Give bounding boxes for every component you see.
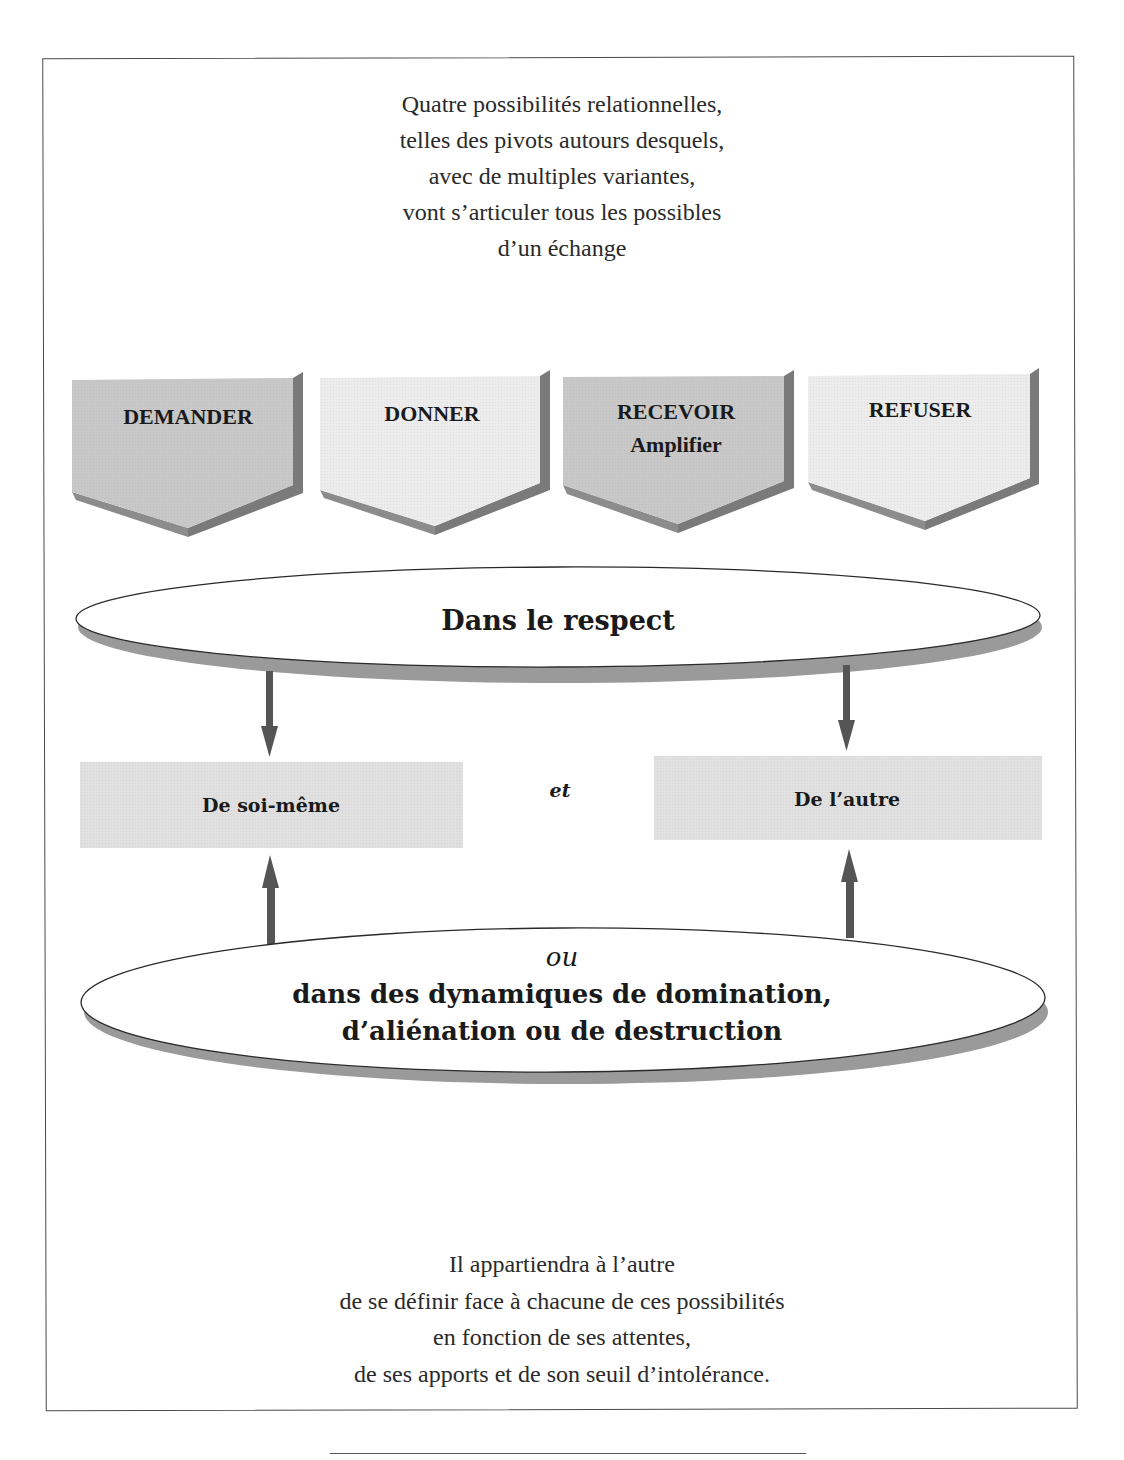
arrow-down-icon bbox=[838, 720, 855, 751]
oval-line: dans des dynamiques de domination, bbox=[292, 979, 831, 1009]
arrow-down-left bbox=[261, 671, 278, 757]
arrow-shaft bbox=[267, 886, 275, 944]
oval-line: d’aliénation ou de destruction bbox=[342, 1016, 782, 1046]
oval-respect: Dans le respect bbox=[76, 565, 1042, 683]
outro-line: de se définir face à chacune de ces poss… bbox=[0, 1283, 1124, 1320]
oval-domination: ou dans des dynamiques de domination, d’… bbox=[81, 925, 1048, 1084]
outro-line: Il appartiendra à l’autre bbox=[0, 1246, 1124, 1283]
pivot-label: RECEVOIR bbox=[617, 399, 736, 424]
arrow-up-icon bbox=[841, 849, 858, 882]
pivot-label: REFUSER bbox=[869, 397, 973, 422]
arrow-down-icon bbox=[261, 726, 278, 757]
pivot-recevoir: RECEVOIR Amplifier bbox=[563, 370, 794, 533]
box-other: De l’autre bbox=[654, 756, 1042, 840]
oval-label: Dans le respect bbox=[441, 605, 675, 636]
connector-ou: ou bbox=[546, 942, 578, 972]
outro-text: Il appartiendra à l’autre de se définir … bbox=[0, 1246, 1124, 1392]
arrow-shaft bbox=[843, 665, 850, 723]
diagram-canvas: DEMANDER DONNER RECEVOIR Amplifier REFUS… bbox=[0, 0, 1124, 1460]
arrow-up-right bbox=[841, 849, 858, 938]
outro-line: de ses apports et de son seuil d’intolér… bbox=[0, 1356, 1124, 1393]
pivot-demander: DEMANDER bbox=[72, 372, 303, 537]
pivot-donner: DONNER bbox=[320, 370, 550, 535]
box-self: De soi-même bbox=[80, 762, 463, 848]
connector-et: et bbox=[550, 779, 571, 801]
pivot-label: DONNER bbox=[384, 401, 480, 426]
box-label: De l’autre bbox=[794, 788, 900, 810]
arrow-up-icon bbox=[262, 855, 279, 888]
pivot-sublabel: Amplifier bbox=[630, 432, 722, 457]
outro-line: en fonction de ses attentes, bbox=[0, 1319, 1124, 1356]
arrow-shaft bbox=[266, 671, 273, 729]
arrow-shaft bbox=[846, 880, 854, 938]
pivot-refuser: REFUSER bbox=[808, 368, 1039, 530]
arrow-down-right bbox=[838, 665, 855, 751]
footer-rule bbox=[330, 1453, 806, 1454]
pivot-label: DEMANDER bbox=[123, 404, 254, 429]
box-label: De soi-même bbox=[202, 794, 340, 816]
arrow-up-left bbox=[262, 855, 279, 944]
